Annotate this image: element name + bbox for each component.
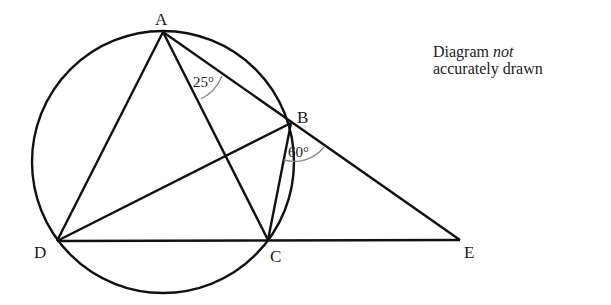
note-line2: accurately drawn (433, 60, 543, 77)
segment-AC (163, 32, 268, 240)
segment-BD (57, 123, 291, 241)
point-label-A: A (155, 11, 167, 28)
point-label-B: B (297, 109, 308, 126)
note-emphasis: not (493, 43, 513, 60)
angle-label-A: 25° (193, 75, 214, 90)
point-label-D: D (34, 244, 46, 261)
point-label-E: E (464, 244, 474, 261)
angle-label-B: 60° (288, 145, 309, 160)
not-to-scale-note: Diagram not accurately drawn (433, 43, 543, 77)
point-label-C: C (270, 248, 281, 265)
geometry-diagram: A B C D E 25° 60° Diagram not accurately… (0, 0, 611, 305)
segment-DE (57, 240, 460, 241)
segment-AD (57, 32, 163, 241)
note-prefix: Diagram (433, 43, 493, 60)
circle (32, 31, 294, 293)
segment-AE (163, 32, 460, 240)
